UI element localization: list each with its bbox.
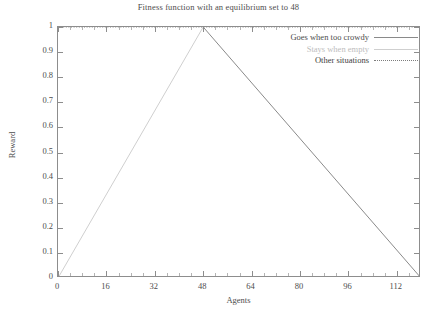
x-minor-tick-mark — [167, 27, 168, 30]
x-tick-label: 16 — [85, 281, 125, 291]
x-minor-tick-mark — [288, 273, 289, 276]
x-tick-label: 48 — [182, 281, 222, 291]
x-tick-mark — [155, 271, 156, 276]
x-minor-tick-mark — [227, 27, 228, 30]
x-tick-mark — [155, 27, 156, 32]
x-minor-tick-mark — [70, 27, 71, 30]
x-tick-mark — [106, 271, 107, 276]
y-tick-mark — [58, 253, 63, 254]
y-tick-mark — [414, 127, 419, 128]
x-minor-tick-mark — [70, 273, 71, 276]
legend-label: Goes when too crowdy — [290, 32, 374, 44]
fitness-function-chart: Fitness function with an equilibrium set… — [0, 0, 437, 323]
legend-item-goes-when-too-crowdy: Goes when too crowdy — [262, 32, 418, 44]
x-tick-mark — [348, 271, 349, 276]
legend-line-sample-dotted — [374, 58, 418, 63]
x-minor-tick-mark — [409, 273, 410, 276]
legend-label: Other situations — [315, 55, 374, 67]
x-minor-tick-mark — [143, 273, 144, 276]
x-minor-tick-mark — [361, 27, 362, 30]
y-tick-mark — [58, 127, 63, 128]
x-minor-tick-mark — [215, 273, 216, 276]
x-tick-label: 32 — [134, 281, 174, 291]
x-minor-tick-mark — [409, 27, 410, 30]
y-tick-label: 0.7 — [0, 95, 53, 105]
y-tick-mark — [414, 253, 419, 254]
x-minor-tick-mark — [312, 27, 313, 30]
x-minor-tick-mark — [373, 27, 374, 30]
x-minor-tick-mark — [131, 273, 132, 276]
x-minor-tick-mark — [215, 27, 216, 30]
y-tick-label: 0.4 — [0, 171, 53, 181]
x-minor-tick-mark — [119, 27, 120, 30]
x-tick-label: 96 — [327, 281, 367, 291]
series-line — [58, 27, 203, 276]
y-tick-mark — [414, 77, 419, 78]
x-tick-mark — [106, 27, 107, 32]
x-tick-mark — [252, 27, 253, 32]
x-minor-tick-mark — [179, 27, 180, 30]
x-minor-tick-mark — [167, 273, 168, 276]
x-minor-tick-mark — [264, 273, 265, 276]
x-minor-tick-mark — [191, 27, 192, 30]
x-minor-tick-mark — [94, 273, 95, 276]
y-tick-label: 0.8 — [0, 70, 53, 80]
legend-item-stays-when-empty: Stays when empty — [262, 44, 418, 56]
x-minor-tick-mark — [385, 273, 386, 276]
y-tick-label: 0.5 — [0, 146, 53, 156]
y-tick-label: 0.2 — [0, 221, 53, 231]
x-tick-mark — [203, 27, 204, 32]
x-tick-mark — [58, 27, 59, 32]
y-tick-label: 0.9 — [0, 45, 53, 55]
y-tick-mark — [414, 102, 419, 103]
legend-line-sample-solid — [374, 35, 418, 40]
x-minor-tick-mark — [312, 273, 313, 276]
x-minor-tick-mark — [324, 273, 325, 276]
x-minor-tick-mark — [179, 273, 180, 276]
y-tick-mark — [58, 52, 63, 53]
x-minor-tick-mark — [131, 27, 132, 30]
x-minor-tick-mark — [119, 273, 120, 276]
x-tick-mark — [252, 271, 253, 276]
x-minor-tick-mark — [288, 27, 289, 30]
x-tick-mark — [58, 271, 59, 276]
legend-label: Stays when empty — [307, 44, 374, 56]
y-tick-mark — [414, 27, 419, 28]
x-minor-tick-mark — [276, 273, 277, 276]
chart-legend: Goes when too crowdy Stays when empty Ot… — [262, 32, 418, 67]
y-tick-mark — [414, 178, 419, 179]
legend-line-sample-faint — [374, 47, 418, 52]
x-minor-tick-mark — [385, 27, 386, 30]
x-minor-tick-mark — [94, 27, 95, 30]
y-tick-mark — [58, 228, 63, 229]
x-axis-label: Agents — [57, 295, 420, 305]
y-tick-label: 0 — [0, 271, 53, 281]
y-tick-mark — [58, 203, 63, 204]
x-minor-tick-mark — [324, 27, 325, 30]
x-minor-tick-mark — [191, 273, 192, 276]
x-minor-tick-mark — [240, 27, 241, 30]
x-tick-label: 0 — [37, 281, 77, 291]
y-tick-mark — [414, 203, 419, 204]
y-tick-mark — [58, 77, 63, 78]
y-tick-mark — [414, 153, 419, 154]
y-tick-label: 1 — [0, 20, 53, 30]
y-tick-label: 0.1 — [0, 246, 53, 256]
x-minor-tick-mark — [373, 273, 374, 276]
x-minor-tick-mark — [227, 273, 228, 276]
x-minor-tick-mark — [240, 273, 241, 276]
x-minor-tick-mark — [82, 273, 83, 276]
y-tick-label: 0.3 — [0, 196, 53, 206]
x-tick-label: 112 — [376, 281, 416, 291]
x-tick-mark — [397, 271, 398, 276]
x-minor-tick-mark — [336, 27, 337, 30]
y-tick-mark — [58, 153, 63, 154]
x-tick-mark — [203, 271, 204, 276]
y-tick-label: 0.6 — [0, 120, 53, 130]
y-tick-mark — [58, 102, 63, 103]
x-minor-tick-mark — [276, 27, 277, 30]
y-tick-mark — [58, 178, 63, 179]
x-tick-label: 80 — [279, 281, 319, 291]
x-minor-tick-mark — [361, 273, 362, 276]
y-tick-mark — [414, 228, 419, 229]
